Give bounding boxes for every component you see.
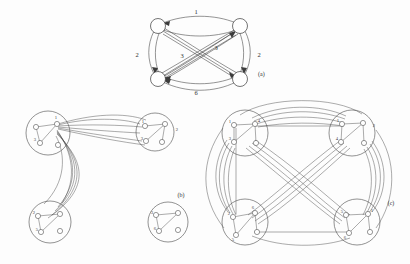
node-b-c3-2[interactable] xyxy=(57,211,62,216)
node-label-c-tr-1: 1 xyxy=(337,118,340,123)
cluster-label-b-2: 2 xyxy=(176,127,179,132)
node-c-bl-1[interactable] xyxy=(230,214,235,219)
edge-b-fan-4 xyxy=(58,128,142,141)
node-c-tr-4[interactable] xyxy=(361,140,366,145)
node-label-c-tr-3: 4 xyxy=(336,136,339,141)
node-label-c-bl-1: 2 xyxy=(228,211,231,216)
node-b-c3-3[interactable] xyxy=(38,229,43,234)
panel-label-c: (c) xyxy=(388,200,395,207)
graph-figure: 1 2 3 3 2 6 (a) 1 3 xyxy=(0,0,410,264)
edge-c-tl-i1 xyxy=(234,124,255,125)
edge-a-top-outer xyxy=(163,16,236,23)
edge-c-tr-i1 xyxy=(342,123,363,124)
edge-a-diag-6 xyxy=(162,29,236,73)
edge-c-diag-a3 xyxy=(246,148,340,224)
node-label-c-bl-3: 5 xyxy=(232,237,235,242)
panel-b: 1 3 1 3 2 2 5 3 6 (b) xyxy=(26,111,188,243)
edge-c-br-i2 xyxy=(349,214,368,233)
edge-a-bottom-outer xyxy=(163,82,236,90)
node-b-c2-4[interactable] xyxy=(159,139,164,144)
edge-label-a-left: 2 xyxy=(135,51,138,58)
edge-b-c3-i1 xyxy=(38,214,60,216)
edge-b-fan-6 xyxy=(58,115,146,124)
node-c-br-2[interactable] xyxy=(365,211,370,216)
node-label-b-c1-1: 1 xyxy=(55,115,58,120)
edge-c-bottom-1 xyxy=(252,236,350,245)
node-a-3[interactable] xyxy=(151,72,166,87)
node-c-bl-4[interactable] xyxy=(254,229,259,234)
cluster-label-c-tr: 2 xyxy=(373,123,376,128)
edge-a-bottom-inner xyxy=(164,77,235,84)
edge-b-c3-i2 xyxy=(41,214,60,232)
edge-c-left-1 xyxy=(216,140,228,212)
node-c-bl-3[interactable] xyxy=(233,232,238,237)
node-label-c-tl-3: 3 xyxy=(229,136,232,141)
edge-label-a-mid-right: 3 xyxy=(214,44,217,51)
cluster-ring-b-4 xyxy=(148,202,188,242)
node-b-c1-1[interactable] xyxy=(54,121,59,126)
node-b-c1-2[interactable] xyxy=(33,124,38,129)
node-label-c-bl-2: 6 xyxy=(252,205,255,210)
edge-a-left-inner xyxy=(155,31,160,74)
edge-b-fan-1 xyxy=(58,119,140,125)
panel-a: 1 2 3 3 2 6 (a) xyxy=(135,8,264,96)
edge-c-bl-i1 xyxy=(233,213,255,217)
node-b-c2-2[interactable] xyxy=(162,121,167,126)
node-b-c4-1[interactable] xyxy=(153,212,158,217)
edge-label-a-mid-left: 3 xyxy=(180,52,183,59)
node-a-1[interactable] xyxy=(151,19,166,34)
node-c-tl-3[interactable] xyxy=(231,139,236,144)
edge-b-c1-i2 xyxy=(40,124,57,143)
node-b-c1-4[interactable] xyxy=(55,142,60,147)
node-a-2[interactable] xyxy=(233,19,248,34)
edge-c-right-4 xyxy=(363,149,371,215)
panel-label-a: (a) xyxy=(258,71,265,78)
edge-b-fan-5 xyxy=(58,129,145,145)
cluster-ring-b-3 xyxy=(29,201,71,243)
edge-c-top-1 xyxy=(252,107,346,118)
node-b-c4-2[interactable] xyxy=(175,210,180,215)
node-b-c3-1[interactable] xyxy=(35,213,40,218)
node-c-br-4[interactable] xyxy=(367,229,372,234)
edge-c-tl-i2 xyxy=(234,124,255,142)
node-b-c2-1[interactable] xyxy=(142,123,147,128)
cluster-ring-b-1 xyxy=(26,111,70,155)
edge-a-top-inner xyxy=(163,30,236,36)
edge-a-right-outer xyxy=(245,31,250,74)
node-b-c4-4[interactable] xyxy=(175,227,180,232)
node-c-br-3[interactable] xyxy=(346,230,351,235)
node-b-c2-3[interactable] xyxy=(143,138,148,143)
node-label-c-tl-1: 1 xyxy=(229,119,232,124)
node-c-tl-2[interactable] xyxy=(252,121,257,126)
edge-c-outer-left xyxy=(206,128,224,228)
cluster-ring-c-tl xyxy=(222,110,268,156)
node-b-c4-3[interactable] xyxy=(156,228,161,233)
node-c-tl-1[interactable] xyxy=(231,122,236,127)
node-c-bl-2[interactable] xyxy=(252,210,257,215)
edge-a-diag-5 xyxy=(163,35,236,79)
edge-b-c1-i1 xyxy=(36,124,57,127)
node-c-tl-4[interactable] xyxy=(253,140,258,145)
edge-b-scurve-1 xyxy=(57,130,71,203)
edge-b-c2-i1 xyxy=(145,124,165,126)
node-c-br-1[interactable] xyxy=(343,212,348,217)
node-b-c3-4[interactable] xyxy=(57,228,62,233)
edge-c-outer-top xyxy=(240,101,362,115)
edge-c-bl-i2 xyxy=(236,213,255,235)
node-a-4[interactable] xyxy=(233,72,248,87)
node-label-b-c3-1: 2 xyxy=(33,210,36,215)
edge-label-a-top: 1 xyxy=(194,8,197,15)
panel-c: 1 4 3 1 4 2 2 6 5 xyxy=(206,101,394,246)
edge-c-diag-b2 xyxy=(255,146,347,221)
node-c-tr-3[interactable] xyxy=(338,139,343,144)
node-c-tr-2[interactable] xyxy=(360,120,365,125)
node-label-c-tl-2: 4 xyxy=(258,118,261,123)
node-c-tr-1[interactable] xyxy=(339,121,344,126)
edge-b-c4-i1 xyxy=(156,213,178,215)
panel-label-b: (b) xyxy=(178,192,185,199)
edge-c-diag-a1 xyxy=(252,143,345,218)
edge-b-fan-2 xyxy=(58,125,142,127)
cluster-ring-c-tr xyxy=(329,110,375,156)
node-b-c1-3[interactable] xyxy=(37,140,42,145)
cluster-ring-c-br xyxy=(334,199,380,245)
